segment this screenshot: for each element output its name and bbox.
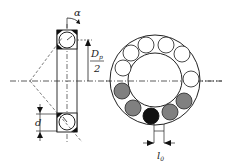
ball-free <box>115 60 131 76</box>
l0-label: l0 <box>157 150 164 162</box>
ball-diameter-dimension: d <box>35 104 57 141</box>
bearing-ring-view <box>106 35 222 125</box>
ball-free <box>183 71 199 87</box>
ball-loaded <box>176 93 192 109</box>
contact-angle-annotation: α <box>67 7 81 28</box>
alpha-label: α <box>74 7 81 18</box>
ball-free <box>158 37 174 53</box>
d-label: d <box>35 117 41 128</box>
ball-free <box>138 37 154 53</box>
bearing-diagram: α Dp 2 d <box>0 0 227 167</box>
ball-loaded <box>125 100 141 116</box>
ball-max-loaded <box>143 108 159 124</box>
ball-loaded <box>162 104 178 120</box>
dp-denominator: 2 <box>93 63 100 74</box>
ball-free <box>123 45 139 61</box>
gap-dimension: l0 <box>143 124 175 162</box>
ball-loaded <box>114 83 130 99</box>
ball-free <box>174 46 190 62</box>
pitch-radius-dimension: Dp 2 <box>77 39 104 81</box>
dp-label: Dp <box>90 48 103 61</box>
